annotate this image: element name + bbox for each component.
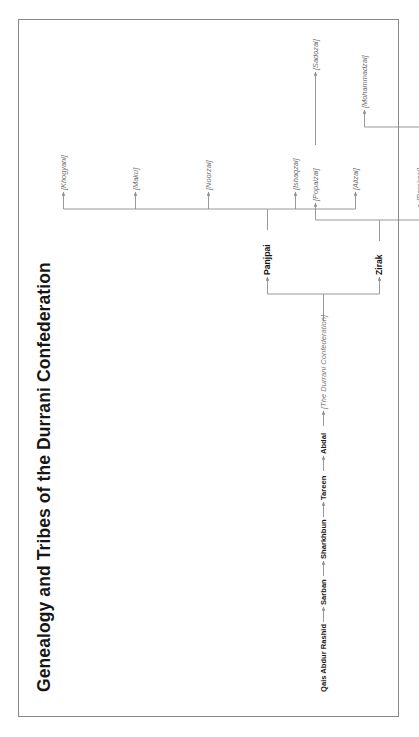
node-label: Qais Abdur Rashid: [319, 624, 327, 692]
node-label: Panjpai: [262, 244, 271, 275]
node-label: Zirak: [374, 254, 383, 275]
page-canvas: Genealogy and Tribes of the Durrani Conf…: [0, 0, 419, 737]
diagram-frame: Genealogy and Tribes of the Durrani Conf…: [18, 19, 399, 717]
diagram-canvas: Genealogy and Tribes of the Durrani Conf…: [19, 20, 400, 718]
node-abdal: Abdal: [319, 433, 327, 454]
node-mohammadzai: [Mohammadzai]: [360, 55, 367, 108]
node-qais-abdur-rashid: Qais Abdur Rashid: [319, 624, 327, 692]
node-label: [Sadozai]: [311, 39, 318, 70]
connector-layer: [19, 20, 400, 718]
page-title: Genealogy and Tribes of the Durrani Conf…: [33, 262, 54, 692]
node-label: [Khogyani]: [59, 155, 66, 190]
node-label: [Alizai]: [351, 168, 358, 190]
node-tareen: Tareen: [319, 476, 327, 500]
node-label: Tareen: [319, 476, 327, 500]
node-sharkhbun: Sharkhbun: [319, 519, 327, 559]
node-alizai: [Alizai]: [351, 168, 358, 190]
node-zirak: Zirak: [374, 254, 383, 275]
node-label: Sarban: [319, 579, 327, 605]
node-panjpai: Panjpai: [262, 244, 271, 275]
node-khogyani: [Khogyani]: [59, 155, 66, 190]
node-barakzai: [Barakzai]: [415, 168, 419, 201]
node-sarban: Sarban: [319, 579, 327, 605]
node-noorzai: [Noorzai]: [204, 160, 211, 190]
node-label: [Noorzai]: [204, 160, 211, 190]
node-ishaqzai: [Ishaqzai]: [291, 158, 298, 190]
node-durrani-confederation: [The Durrani Confederation]: [319, 315, 327, 409]
node-label: [The Durrani Confederation]: [319, 315, 327, 409]
node-sadozai: [Sadozai]: [311, 39, 318, 70]
node-popalzai: [Popalzai]: [311, 169, 318, 201]
node-maku: [Maku]: [131, 168, 138, 190]
node-label: Abdal: [319, 433, 327, 454]
node-label: [Popalzai]: [311, 169, 318, 201]
node-label: Sharkhbun: [319, 519, 327, 559]
rotation-wrapper: Genealogy and Tribes of the Durrani Conf…: [19, 20, 400, 718]
node-label: [Mohammadzai]: [360, 55, 367, 108]
node-label: [Ishaqzai]: [291, 158, 298, 190]
node-label: [Barakzai]: [415, 168, 419, 201]
node-label: [Maku]: [131, 168, 138, 190]
